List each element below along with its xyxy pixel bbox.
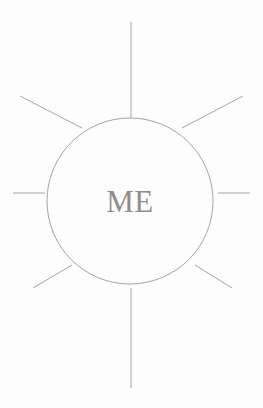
ray-southeast-line [195,265,232,288]
diagram-canvas: ME [0,0,263,408]
ray-northwest-line [20,96,82,128]
hub-circle [47,118,213,284]
ray-southwest-line [33,265,72,288]
ray-group [13,22,250,388]
sunburst-diagram [0,0,263,408]
ray-northeast-line [182,96,243,128]
